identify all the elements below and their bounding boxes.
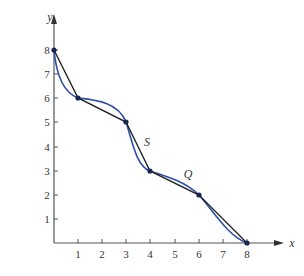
y-tick-label: 7	[44, 68, 50, 80]
annotation-q: Q	[184, 167, 193, 181]
point-3-5	[123, 119, 128, 124]
annotation-s: S	[144, 135, 150, 149]
x-tick-label: 5	[172, 248, 178, 260]
y-tick-label: 4	[44, 141, 50, 153]
x-tick-label: 4	[147, 248, 153, 260]
x-tick-label: 3	[123, 248, 129, 260]
x-axis-label: x	[288, 236, 295, 250]
y-tick-label: 2	[44, 189, 50, 201]
x-tick-label: 6	[196, 248, 202, 260]
point-4-3	[147, 168, 152, 173]
chart: y x 1 2 3 4 5 6 7 8 1 2 3 4 5	[0, 0, 304, 276]
x-tick-label: 8	[244, 248, 250, 260]
polygonal-path	[54, 50, 247, 243]
x-axis-arrow-icon	[274, 240, 284, 246]
x-tick-label: 7	[220, 248, 226, 260]
y-tick-label: 3	[44, 165, 50, 177]
x-tick-label: 1	[75, 248, 81, 260]
y-tick-label: 5	[44, 116, 50, 128]
axes: y x	[46, 10, 295, 250]
x-tick-label: 2	[99, 248, 105, 260]
y-tick-label: 1	[44, 213, 50, 225]
y-axis-label: y	[46, 10, 53, 24]
y-tick-label: 8	[44, 44, 50, 56]
x-tick-labels: 1 2 3 4 5 6 7 8	[75, 248, 250, 260]
point-8-0	[244, 240, 249, 245]
point-6-2	[196, 192, 201, 197]
y-tick-labels: 1 2 3 4 5 6 7 8	[44, 44, 50, 225]
point-1-6	[75, 95, 80, 100]
y-tick-label: 6	[44, 92, 50, 104]
point-0-8	[51, 47, 56, 52]
